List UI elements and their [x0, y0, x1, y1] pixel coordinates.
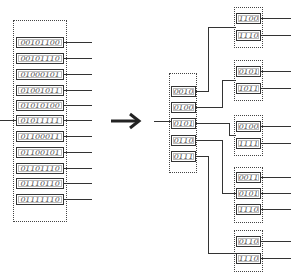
left-pointer: [64, 152, 92, 153]
connector: [208, 27, 236, 28]
left-key: 01010100: [16, 100, 64, 111]
left-pointer: [64, 105, 92, 106]
connector: [208, 156, 209, 254]
right-pointer: [261, 71, 291, 72]
connector: [222, 80, 223, 108]
connector: [196, 123, 230, 124]
right-key: 1100: [236, 13, 261, 24]
left-key: 00101110: [16, 53, 64, 64]
right-pointer: [261, 209, 291, 210]
left-key: 01100101: [16, 147, 64, 158]
left-key: 01000101: [16, 69, 64, 80]
right-key: 1011: [236, 83, 261, 94]
right-key: 0101: [236, 66, 261, 77]
middle-key: 0010: [171, 86, 196, 97]
b-tree-split-diagram: 00101100 00101110 01000101 01001011 0101…: [0, 0, 292, 278]
left-input-line: [0, 120, 16, 121]
right-pointer: [261, 177, 291, 178]
left-key: 01100011: [16, 131, 64, 142]
middle-key: 0101: [171, 118, 196, 129]
right-key: 1110: [236, 253, 261, 264]
connector: [196, 140, 223, 141]
left-key: 01101110: [16, 163, 64, 174]
right-pointer: [261, 193, 291, 194]
right-key: 0011: [236, 172, 261, 183]
left-pointer: [64, 90, 92, 91]
connector: [222, 140, 223, 194]
left-pointer: [64, 199, 92, 200]
right-pointer: [261, 241, 291, 242]
middle-key: 0110: [171, 135, 196, 146]
right-key: 1110: [236, 30, 261, 41]
left-pointer: [64, 136, 92, 137]
right-key: 0110: [236, 236, 261, 247]
connector: [208, 27, 209, 92]
right-pointer: [261, 258, 291, 259]
right-pointer: [261, 126, 291, 127]
left-pointer: [64, 183, 92, 184]
left-key: 01111110: [16, 194, 64, 205]
right-arrow-icon: [110, 112, 142, 130]
right-pointer: [261, 35, 291, 36]
left-pointer: [64, 58, 92, 59]
left-pointer: [64, 120, 92, 121]
middle-key: 0100: [171, 102, 196, 113]
right-pointer: [261, 18, 291, 19]
right-key: 1110: [236, 204, 261, 215]
connector: [208, 253, 236, 254]
right-key: 1111: [236, 138, 261, 149]
middle-key: 0111: [171, 151, 196, 162]
right-key: 0101: [236, 188, 261, 199]
left-key: 01110110: [16, 178, 64, 189]
left-pointer: [64, 74, 92, 75]
left-pointer: [64, 42, 92, 43]
right-key: 0100: [236, 121, 261, 132]
connector: [196, 107, 223, 108]
left-key: 01011111: [16, 115, 64, 126]
left-key: 01001011: [16, 85, 64, 96]
left-pointer: [64, 168, 92, 169]
right-pointer: [261, 143, 291, 144]
left-key: 00101100: [16, 37, 64, 48]
right-pointer: [261, 88, 291, 89]
